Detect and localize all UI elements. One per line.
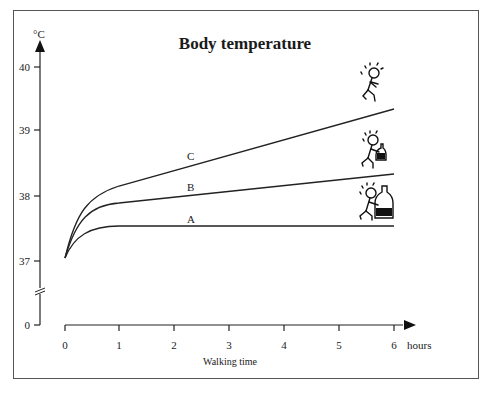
series-a-line <box>65 226 394 258</box>
x-tick-2: 2 <box>164 339 184 351</box>
x-tick-0: 0 <box>55 339 75 351</box>
x-axis-arrow-icon <box>404 320 416 330</box>
series-a-label: A <box>187 213 195 225</box>
figure-small-bottle-icon <box>362 131 386 168</box>
figure-large-bottle-icon <box>360 183 393 220</box>
x-tick-1: 1 <box>109 339 129 351</box>
y-tick-40: 40 <box>4 61 30 73</box>
y-axis-arrow-icon <box>35 40 45 52</box>
chart-plot <box>0 0 490 394</box>
series-b-line <box>65 174 394 258</box>
y-axis-unit: °C <box>33 28 45 40</box>
walking-figure-icon <box>361 63 383 101</box>
x-tick-5: 5 <box>329 339 349 351</box>
series-c-label: C <box>187 150 194 162</box>
x-axis <box>65 325 403 331</box>
axis-break-icon <box>35 288 45 295</box>
y-tick-37: 37 <box>4 255 30 267</box>
y-tick-39: 39 <box>4 124 30 136</box>
series-c-line <box>65 109 394 258</box>
x-tick-6: 6 <box>384 339 404 351</box>
y-axis <box>34 50 40 325</box>
x-axis-label: Walking time <box>200 356 260 368</box>
series-b-label: B <box>187 181 194 193</box>
y-tick-38: 38 <box>4 190 30 202</box>
x-tick-4: 4 <box>274 339 294 351</box>
y-tick-0: 0 <box>4 319 30 331</box>
x-tick-3: 3 <box>219 339 239 351</box>
x-axis-unit: hours <box>407 339 431 351</box>
